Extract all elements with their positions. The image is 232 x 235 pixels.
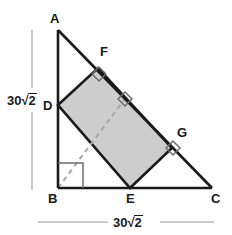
right-angle-at-B-icon [58, 163, 83, 188]
vertical-dimension-radicand: 2 [28, 93, 37, 108]
vertex-label-B: B [48, 192, 57, 205]
vertex-label-F: F [100, 45, 108, 58]
vertical-dimension-radical: √2 [21, 93, 36, 108]
vertical-dimension-label: 30√2 [7, 93, 37, 108]
vertex-label-D: D [43, 99, 52, 112]
horizontal-dimension-label: 30√2 [113, 215, 143, 230]
horizontal-dimension-radicand: 2 [134, 215, 143, 230]
vertical-dimension-value: 30 [7, 93, 21, 108]
horizontal-dimension-value: 30 [113, 215, 127, 230]
vertex-label-C: C [211, 192, 220, 205]
vertex-label-E: E [126, 192, 135, 205]
geometry-diagram [0, 0, 232, 235]
vertex-label-A: A [50, 12, 59, 25]
horizontal-dimension-radical: √2 [127, 215, 142, 230]
vertex-label-G: G [177, 126, 187, 139]
